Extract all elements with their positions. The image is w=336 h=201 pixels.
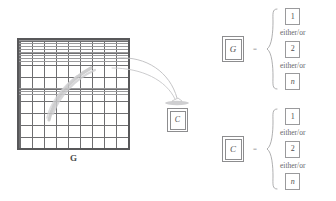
legend-options-c: 1 either/or 2 either/or n <box>280 108 305 190</box>
arrow-head <box>172 98 182 101</box>
legend-key-c-box: C <box>222 136 244 162</box>
legend-option-box: n <box>285 73 300 90</box>
legend-conjunction: either/or <box>280 62 305 70</box>
arrow-head-cap <box>165 101 189 105</box>
grid-figure <box>17 38 130 150</box>
legend-conjunction: either/or <box>280 29 305 37</box>
legend-option-box: 2 <box>285 141 300 158</box>
legend-key-g-label: G <box>225 39 242 60</box>
legend-options-g: 1 either/or 2 either/or n <box>280 8 305 90</box>
legend-brace-c <box>266 108 279 190</box>
legend-conjunction: either/or <box>280 162 305 170</box>
legend-option-box: n <box>285 173 300 190</box>
middle-c-box-label: C <box>170 111 186 130</box>
legend-equals-g: = <box>244 45 266 53</box>
legend-key-c-label: C <box>225 139 242 160</box>
middle-c-box: C <box>167 108 188 132</box>
legend-key-g-box: G <box>222 36 244 62</box>
legend-option-box: 1 <box>285 8 300 25</box>
legend-option-box: 1 <box>285 108 300 125</box>
legend-row-g: G = 1 either/or 2 either/or n <box>222 8 305 90</box>
legend-equals-c: = <box>244 145 266 153</box>
grid-label: G <box>17 153 130 163</box>
legend-row-c: C = 1 either/or 2 either/or n <box>222 108 305 190</box>
legend-brace-g <box>266 8 279 90</box>
legend-option-box: 2 <box>285 41 300 58</box>
grid-canvas <box>17 38 130 150</box>
legend-conjunction: either/or <box>280 129 305 137</box>
